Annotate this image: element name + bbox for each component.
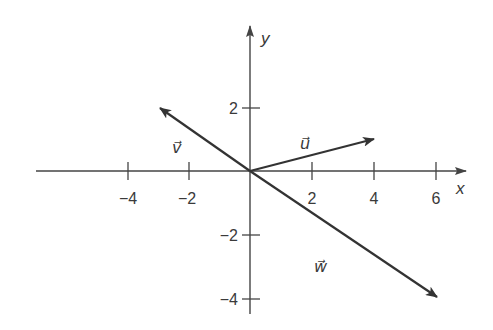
x-tick-label: 6 <box>432 190 441 207</box>
vector-diagram: −4 −2 2 4 6 2 −2 −4 x y u⃗ v⃗ w⃗ <box>0 0 493 330</box>
x-tick-label: −2 <box>178 190 196 207</box>
vector-v-label: v⃗ <box>172 139 182 156</box>
y-axis-label: y <box>260 29 271 48</box>
x-tick-label: 2 <box>308 190 317 207</box>
x-tick-label: −4 <box>119 190 137 207</box>
vector-w <box>250 171 437 297</box>
x-axis-label: x <box>455 179 465 198</box>
y-tick-label: −4 <box>220 291 238 308</box>
y-tick-label: 2 <box>229 100 238 117</box>
x-tick-label: 4 <box>370 190 379 207</box>
vector-u-label: u⃗ <box>300 135 310 152</box>
vector-w-label: w⃗ <box>314 258 328 275</box>
y-ticks <box>242 108 260 299</box>
y-tick-label: −2 <box>220 227 238 244</box>
